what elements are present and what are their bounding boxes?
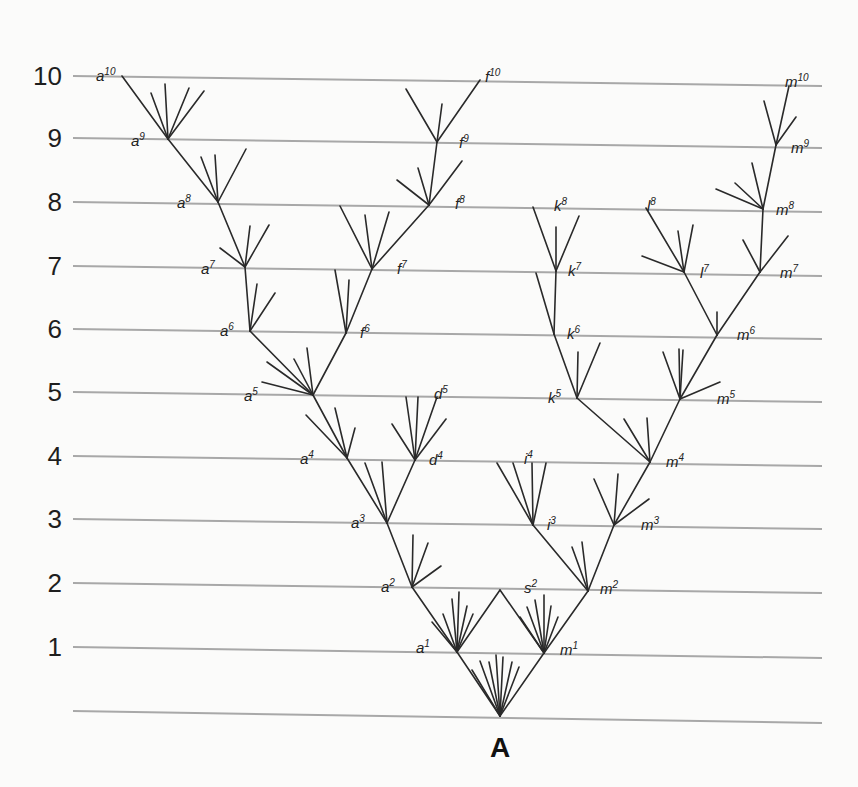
extinct-twig: [764, 101, 776, 145]
node-label-k5: k5: [548, 388, 562, 406]
node-label-l7: l7: [700, 263, 709, 281]
node-label-a9: a9: [131, 131, 145, 149]
node-label-a1: a1: [416, 638, 430, 656]
generation-number: 10: [33, 61, 62, 91]
extinct-twig: [267, 362, 313, 395]
generation-number: 9: [48, 123, 62, 153]
branch-m7-m8: [760, 209, 763, 272]
node-label-a10: a10: [96, 66, 116, 84]
extinct-twig: [397, 180, 429, 205]
extinct-twig: [594, 479, 614, 525]
branch-m2-i3: [533, 525, 588, 591]
generation-numbers: 10987654321: [33, 61, 62, 662]
node-label-a7: a7: [201, 259, 215, 277]
extinct-twig: [168, 91, 204, 139]
node-label-f9: f9: [459, 133, 469, 151]
node-label-f6: f6: [360, 323, 370, 341]
extinct-twig: [250, 293, 275, 331]
generation-line: [73, 519, 822, 529]
generation-number: 2: [48, 568, 62, 598]
generation-number: 6: [48, 314, 62, 344]
branch-k6-k7: [554, 271, 556, 334]
extinct-twig: [735, 183, 763, 209]
extinct-twig: [533, 463, 546, 525]
branch-a8-a9: [168, 139, 218, 202]
extinct-twig: [614, 474, 618, 525]
extinct-twig: [497, 463, 533, 525]
extinct-twig: [406, 89, 437, 142]
branch-a5-f6: [313, 333, 346, 395]
branch-m1-s2: [500, 590, 544, 653]
generation-line: [73, 266, 822, 276]
extinct-twig: [716, 189, 763, 209]
extinct-twig: [680, 382, 720, 399]
tree-diagram: 10987654321 a1m1s2a2m2a3i3m3a4d4i4m4a5d5…: [0, 0, 858, 787]
extinct-twig: [536, 273, 554, 334]
branch-k7-k8: [533, 207, 556, 271]
node-label-m7: m7: [780, 263, 799, 281]
generation-number: 1: [48, 632, 62, 662]
node-label-i3: i3: [547, 515, 556, 533]
branch-f9-f10: [437, 80, 480, 142]
generation-line: [73, 76, 822, 86]
extinct-twig: [218, 149, 246, 202]
extinct-twig: [642, 256, 684, 272]
node-labels: a1m1s2a2m2a3i3m3a4d4i4m4a5d5k5m5a6f6k6m6…: [96, 66, 810, 658]
extinct-twig: [577, 352, 578, 398]
node-label-f8: f8: [455, 194, 465, 212]
extinct-twig: [382, 462, 387, 523]
node-label-m2: m2: [600, 579, 619, 597]
node-label-m8: m8: [776, 200, 795, 218]
extinct-twig: [347, 428, 355, 458]
node-label-a5: a5: [244, 386, 258, 404]
branch-m5-m6: [680, 335, 717, 399]
generation-line: [73, 647, 822, 658]
extinct-twig: [335, 270, 346, 333]
generation-line: [73, 138, 822, 148]
branch-l7-l8: [646, 208, 684, 272]
branch-m6-l7: [684, 272, 717, 335]
generation-number: 3: [48, 504, 62, 534]
ancestor-label: A: [490, 732, 510, 763]
generation-line: [73, 711, 822, 723]
branch-m4-k5: [577, 398, 650, 462]
extinct-twig: [577, 343, 600, 398]
node-label-m6: m6: [737, 325, 756, 343]
node-label-k6: k6: [567, 324, 581, 342]
extinct-twig: [647, 418, 650, 462]
branch-a9-a10: [122, 76, 168, 139]
node-label-s2: s2: [524, 578, 538, 596]
extinct-twig: [335, 408, 347, 458]
node-label-a2: a2: [381, 577, 395, 595]
node-label-m10: m10: [785, 72, 809, 90]
node-label-l8: l8: [647, 196, 656, 214]
branch-m8-m9: [763, 145, 776, 209]
node-label-m4: m4: [666, 452, 685, 470]
branch-a6-a7: [245, 267, 250, 331]
extinct-twig: [418, 168, 429, 205]
extinct-twig: [624, 419, 650, 462]
node-label-m9: m9: [791, 138, 810, 156]
extinct-twig: [250, 284, 257, 331]
node-label-d4: d4: [429, 450, 443, 468]
branch-a3-d4: [387, 460, 415, 523]
node-label-a3: a3: [351, 513, 365, 531]
generation-line: [73, 583, 822, 593]
generation-number: 4: [48, 441, 62, 471]
extinct-twig: [743, 240, 760, 272]
node-label-a4: a4: [300, 449, 314, 467]
node-label-d5: d5: [434, 384, 448, 402]
extinct-twig: [412, 535, 413, 587]
generation-line: [73, 329, 822, 339]
generation-line: [73, 456, 822, 466]
extinct-twig: [406, 397, 415, 460]
extinct-twig: [752, 163, 763, 209]
generation-number: 8: [48, 187, 62, 217]
extinct-twig: [663, 352, 680, 399]
extinct-twig: [680, 350, 683, 399]
node-label-m5: m5: [717, 389, 736, 407]
node-label-f7: f7: [397, 259, 407, 277]
extinct-twig: [532, 463, 533, 525]
node-label-a6: a6: [220, 321, 234, 339]
node-label-a8: a8: [177, 193, 191, 211]
